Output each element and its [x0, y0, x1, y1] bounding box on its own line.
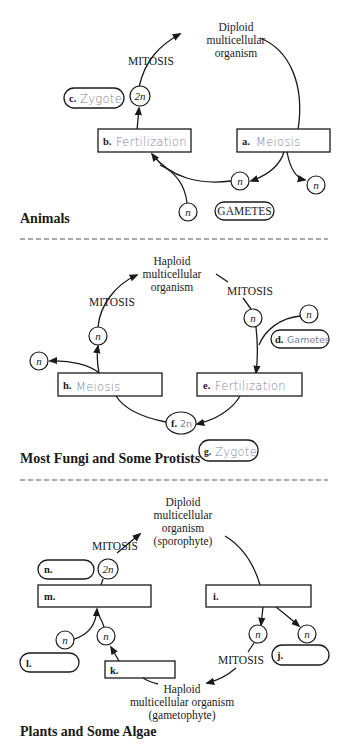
- line-n-to-mitosis: [248, 643, 254, 652]
- arc-f-to-meiosis: [116, 396, 166, 422]
- arrow-n-to-fertilization: [256, 327, 258, 373]
- gamete-n-label-right: n: [103, 630, 109, 642]
- answer-d-letter: d.: [275, 334, 284, 345]
- sporophyte-label-line1: Diploid: [165, 496, 200, 509]
- organism-label-line3: organism: [151, 281, 194, 294]
- mitosis-label: MITOSIS: [128, 55, 174, 67]
- sporophyte-label-line3: organism: [162, 522, 205, 535]
- arrow-k-to-n: [111, 647, 119, 661]
- section-title-plants: Plants and Some Algae: [20, 724, 157, 739]
- arrow-fertilization-to-f: [197, 396, 240, 424]
- line-n-right-to-m: [97, 612, 104, 627]
- n-label-right: n: [250, 312, 256, 324]
- answer-j-letter: j.: [276, 650, 283, 661]
- answer-b-letter: b.: [103, 136, 112, 147]
- gamete-n-label-3: n: [185, 206, 191, 218]
- answer-c-text: Zygote: [80, 92, 122, 106]
- answer-f-letter: f.: [171, 418, 177, 429]
- spore-n-label-2: n: [304, 628, 310, 640]
- ploidy-2n-label: 2n: [103, 563, 115, 575]
- n-label-left: n: [95, 330, 101, 342]
- arc-organism-to-mitosis-right: [216, 274, 228, 282]
- organism-label-line1: Haploid: [153, 255, 190, 268]
- ploidy-2n-label: 2n: [135, 90, 147, 102]
- mitosis-label-right: MITOSIS: [227, 285, 273, 297]
- plants-cycle: Diploid multicellular organism (sporophy…: [20, 496, 329, 739]
- arrow-fertilization-to-zygote: [137, 108, 139, 130]
- section-title-animals: Animals: [20, 211, 70, 226]
- gametophyte-label-line2: multicellular organism: [130, 696, 234, 709]
- arrow-meiosis-to-n-left: [97, 346, 99, 373]
- gametophyte-label-line1: Haploid: [163, 683, 200, 696]
- arc-organism-to-meiosis: [260, 38, 300, 130]
- answer-h-text: Meiosis: [76, 380, 121, 394]
- arrow-gamete3-to-fertilization: [160, 165, 187, 203]
- arrow-meiosis-to-n-far-left: [50, 361, 99, 373]
- answer-l-letter: l.: [26, 658, 32, 669]
- answer-d-text: Gametes: [287, 334, 330, 345]
- answer-m-letter: m.: [44, 591, 56, 602]
- answer-h-letter: h.: [63, 380, 72, 391]
- mitosis-label-top: MITOSIS: [92, 540, 138, 552]
- arc-mitosis-to-n-right: [243, 298, 251, 309]
- answer-n-letter: n.: [44, 564, 53, 575]
- answer-a-letter: a.: [242, 136, 250, 147]
- sporophyte-label-line4: (sporophyte): [154, 535, 213, 548]
- line-2n-to-m: [101, 579, 103, 585]
- sporophyte-label-line2: multicellular: [154, 509, 213, 521]
- arc-sporophyte-to-i: [225, 536, 260, 585]
- arrow-meiosis-to-gamete2: [287, 152, 305, 180]
- arrow-meiosis-to-gamete1: [251, 152, 284, 181]
- life-cycles-diagram: Diploid multicellular organism MITOSIS 2…: [0, 0, 348, 751]
- organism-label-line2: multicellular: [207, 34, 266, 46]
- n-label-far-right: n: [306, 308, 312, 320]
- mitosis-label-bottom: MITOSIS: [218, 654, 264, 666]
- mitosis-label-left: MITOSIS: [89, 296, 135, 308]
- answer-b-text: Fertilization: [116, 135, 187, 149]
- gamete-n-label-1: n: [237, 175, 243, 187]
- answer-i-letter: i.: [213, 591, 219, 602]
- gamete-n-label-left: n: [62, 634, 68, 646]
- answer-a-text: Meiosis: [256, 135, 301, 149]
- line-gametophyte-to-k: [143, 678, 158, 684]
- organism-label-line3: organism: [215, 47, 258, 60]
- answer-f-text: 2n: [180, 418, 192, 429]
- answer-k-letter: k.: [110, 665, 119, 676]
- answer-g-text: Zygote: [215, 445, 257, 459]
- spore-n-label-1: n: [255, 628, 261, 640]
- answer-i-box[interactable]: [206, 585, 311, 607]
- gametes-label: GAMETES: [217, 205, 271, 217]
- section-title-fungi: Most Fungi and Some Protists: [20, 451, 201, 466]
- answer-g-letter: g.: [204, 447, 211, 457]
- arrow-i-to-n1: [261, 607, 263, 625]
- answer-e-letter: e.: [203, 380, 211, 391]
- arrow-gametes-to-m: [74, 609, 97, 639]
- gametophyte-label-line3: (gametophyte): [148, 709, 215, 722]
- arrow-mitosis-to-gametophyte: [207, 668, 236, 683]
- arrow-i-to-n2: [276, 607, 299, 626]
- n-label-far-left: n: [36, 355, 42, 367]
- answer-c-letter: c.: [69, 93, 77, 104]
- organism-label-line2: multicellular: [143, 268, 202, 280]
- fungi-cycle: Haploid multicellular organism MITOSIS M…: [20, 255, 330, 466]
- gamete-n-label-2: n: [313, 179, 319, 191]
- animals-cycle: Diploid multicellular organism MITOSIS 2…: [20, 21, 330, 226]
- organism-label-line1: Diploid: [218, 21, 253, 34]
- answer-e-text: Fertilization: [215, 379, 286, 393]
- arrow-gamete1-to-fertilization: [152, 154, 231, 182]
